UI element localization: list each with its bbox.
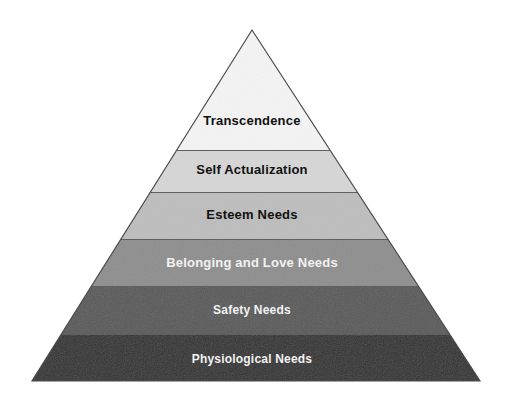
pyramid-diagram: Transcendence Self Actualization Esteem … — [0, 0, 505, 402]
pyramid-label-physiological-needs: Physiological Needs — [192, 352, 313, 366]
pyramid-label-safety-needs: Safety Needs — [213, 303, 291, 317]
pyramid-label-esteem-needs: Esteem Needs — [206, 207, 297, 222]
pyramid-label-belonging-and-love-needs: Belonging and Love Needs — [166, 255, 338, 270]
pyramid-figure: Transcendence Self Actualization Esteem … — [0, 0, 505, 402]
pyramid-label-transcendence: Transcendence — [203, 113, 300, 128]
pyramid-label-self-actualization: Self Actualization — [196, 162, 307, 177]
